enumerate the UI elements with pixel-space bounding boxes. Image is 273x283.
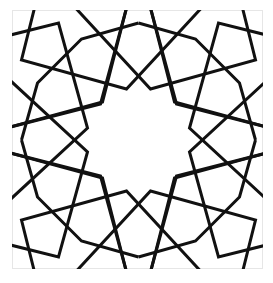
outer-band-segment-1 [139, 23, 256, 140]
outer-band-segment-2 [22, 140, 139, 257]
outer-band-segment-3 [139, 140, 256, 257]
diagonal-ribbon-5 [151, 8, 271, 128]
diagonal-ribbon-2 [7, 152, 127, 272]
diagonal-ribbon-3 [151, 152, 271, 272]
diagonal-ribbon-0 [7, 8, 127, 128]
diagonal-ribbon-6 [7, 152, 127, 272]
star-pattern-canvas [0, 0, 273, 283]
outer-band-segment-0 [22, 23, 139, 140]
diagonal-ribbon-7 [151, 152, 271, 272]
diagonal-ribbon-1 [151, 8, 271, 128]
pattern-lines [7, 8, 271, 272]
diagonal-ribbon-4 [7, 8, 127, 128]
